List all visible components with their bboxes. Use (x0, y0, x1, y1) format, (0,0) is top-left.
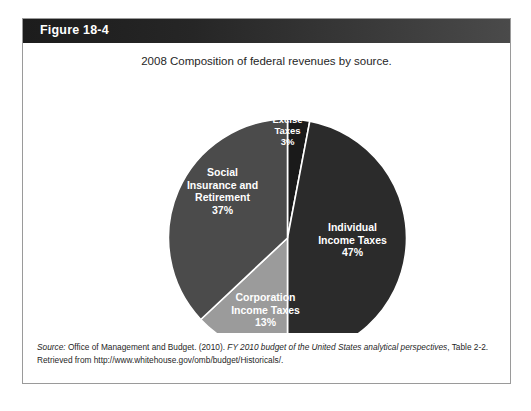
source-publisher: Office of Management and Budget. (2010). (66, 342, 228, 352)
source-note: Source: Office of Management and Budget.… (37, 341, 499, 367)
figure-card: Figure 18-4 2008 Composition of federal … (22, 18, 511, 384)
chart-title: 2008 Composition of federal revenues by … (23, 55, 510, 67)
pie-chart: ExciseTaxes3%IndividualIncome Taxes47%Co… (23, 83, 510, 333)
figure-header-bar: Figure 18-4 (23, 19, 510, 43)
pie-chart-svg: ExciseTaxes3%IndividualIncome Taxes47%Co… (22, 83, 511, 333)
source-lead: Source: (37, 342, 66, 352)
figure-label: Figure 18-4 (40, 23, 109, 37)
source-work-title: FY 2010 budget of the United States anal… (227, 342, 447, 352)
